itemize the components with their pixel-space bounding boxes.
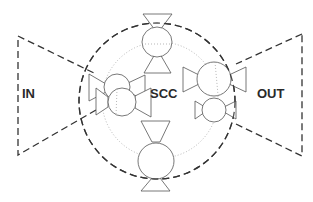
label-out: OUT (257, 86, 285, 101)
node-right-2 (195, 98, 236, 122)
label-in: IN (22, 86, 35, 101)
label-scc: SCC (150, 86, 178, 101)
node-bottom (138, 121, 174, 191)
node-right-1 (183, 62, 246, 96)
scc-diagram: IN SCC OUT (0, 0, 313, 202)
